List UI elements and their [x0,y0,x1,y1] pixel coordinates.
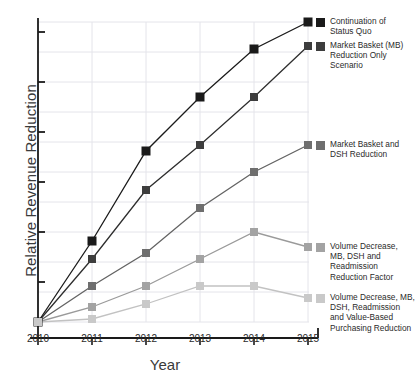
y-axis-ticks [38,32,45,282]
data-point-marker [142,300,150,308]
legend-label-line: DSH, Readmission [330,302,416,312]
data-point-marker [88,282,96,290]
legend-label-line: Reduction Only [330,50,416,60]
x-axis-tick-label: 2010 [18,333,58,344]
legend-label: Continuation ofStatus Quo [330,16,416,36]
data-point-marker [142,282,150,290]
series-line-2 [38,46,308,322]
legend-label-line: Purchasing Reduction [330,323,416,333]
data-point-marker [250,45,259,54]
x-axis-tick-label: 2014 [234,333,274,344]
data-point-marker [142,249,150,257]
data-point-marker [88,303,96,311]
legend-label: Volume Decrease, MB,DSH, Readmissionand … [330,292,416,333]
data-point-marker [304,243,312,251]
data-point-marker [88,255,96,263]
series-line-5 [38,286,308,322]
legend-swatch-icon [316,18,325,27]
data-point-marker [304,18,313,27]
data-point-marker [142,147,151,156]
data-point-marker [250,282,258,290]
data-point-marker [88,237,97,246]
legend-label-line: Continuation of [330,16,416,26]
x-axis-title: Year [0,356,330,373]
legend-label-line: Scenario [330,60,416,70]
legend-swatch-icon [316,42,325,51]
legend-label-line: Reduction Factor [330,272,416,282]
legend-label-line: Volume Decrease, MB, [330,292,416,302]
data-point-marker [304,42,312,50]
data-point-marker [196,282,204,290]
legend-label: Market Basket (MB)Reduction OnlyScenario [330,40,416,71]
data-point-marker [88,315,96,323]
data-point-marker [250,93,258,101]
legend-label: Market Basket andDSH Reduction [330,139,416,159]
x-axis-tick-label: 2012 [126,333,166,344]
x-axis-tick-label: 2013 [180,333,220,344]
data-point-marker [304,294,312,302]
x-axis-tick-label: 2011 [72,333,112,344]
data-point-marker [196,93,205,102]
series-line-4 [38,232,308,322]
legend-label-line: Readmission [330,261,416,271]
data-point-marker [250,228,258,236]
data-point-marker [34,318,42,326]
gridlines [38,22,309,322]
legend-swatch-icon [316,243,325,252]
data-point-marker [196,204,204,212]
legend-label-line: and Value-Based [330,312,416,322]
legend-swatch-icon [316,294,325,303]
data-point-marker [142,186,150,194]
legend-label-line: Market Basket (MB) [330,40,416,50]
data-point-marker [196,255,204,263]
legend-swatch-icon [316,141,325,150]
legend-label-line: Status Quo [330,26,416,36]
legend-label-line: Volume Decrease, [330,241,416,251]
x-axis-tick-label: 2015 [288,333,328,344]
data-point-marker [250,168,258,176]
legend-label: Volume Decrease,MB, DSH andReadmissionRe… [330,241,416,282]
data-point-marker [304,141,312,149]
legend-label-line: DSH Reduction [330,149,416,159]
data-point-marker [196,141,204,149]
legend-label-line: MB, DSH and [330,251,416,261]
legend-label-line: Market Basket and [330,139,416,149]
